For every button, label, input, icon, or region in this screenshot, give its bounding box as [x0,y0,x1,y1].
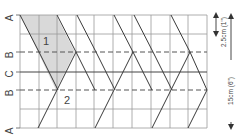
row-ticks [16,15,20,128]
row-labels: A B C B A [4,14,15,134]
row-label-a-bottom: A [4,127,15,134]
stitch-diagonal-line [153,52,172,90]
dimension-large-label: 15cm (6") [227,77,235,105]
smocking-grid-diagram: A B C B A 1 2 2.5cm (1") 15cm (6") [0,0,240,138]
row-label-b-lower: B [4,89,15,96]
stitch-diagonal-line [171,15,190,52]
arrow-up-icon [228,13,234,19]
stitch-diagonal-line [133,52,152,90]
shaded-region-triangle [38,52,75,90]
row-label-b-upper: B [4,51,15,58]
stitch-diagonal-line [76,52,95,90]
arrow-down-icon [213,31,219,37]
stitch-diagonal-line [96,52,115,90]
row-label-c: C [4,70,15,77]
region-label-1: 1 [43,35,49,47]
stitch-diagonal-line [190,52,207,90]
arrow-up-icon [213,12,219,18]
stitch-diagonal-line [114,52,133,90]
region-label-2: 2 [64,94,70,106]
stitch-diagonal-line [77,15,96,52]
stitch-diagonal-line [114,15,133,52]
stitch-diagonal-line [171,52,190,90]
dimension-small [213,12,219,37]
dimension-small-label: 2.5cm (1") [220,17,228,47]
stitch-diagonal-line [134,15,153,52]
arrow-down-icon [228,124,234,130]
row-label-a-top: A [4,14,15,21]
